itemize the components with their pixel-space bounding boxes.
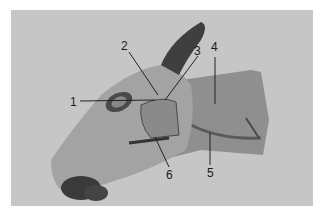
label-5: 5 (207, 167, 214, 179)
label-4: 4 (211, 41, 218, 53)
label-2: 2 (121, 40, 128, 52)
label-3: 3 (194, 45, 201, 57)
cow-head-illustration (11, 10, 313, 206)
label-1: 1 (70, 96, 77, 108)
label-6: 6 (166, 169, 173, 181)
figure-caption (0, 212, 320, 221)
specimen-photo: 1 2 3 4 5 6 (11, 10, 313, 206)
